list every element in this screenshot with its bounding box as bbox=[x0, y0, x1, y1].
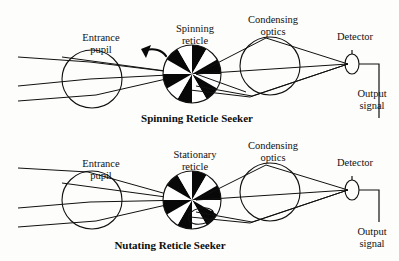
panel-spinning-reticle-seeker: Entrance pupil Spinning reticle Condensi… bbox=[18, 14, 387, 124]
reticle-wheel-stationary bbox=[163, 171, 221, 229]
label-output-top-line2: signal bbox=[359, 100, 384, 111]
label-spinning-reticle-line1: Spinning bbox=[176, 23, 215, 34]
label-condensing-optics-top-line1: Condensing bbox=[248, 14, 299, 25]
label-spinning-reticle-line2: reticle bbox=[182, 35, 209, 46]
label-condensing-optics-bottom-line2: optics bbox=[260, 152, 285, 163]
incoming-ray-bundle-top bbox=[18, 57, 96, 101]
caption-nutating-reticle-seeker: Nutating Reticle Seeker bbox=[114, 239, 225, 251]
label-output-bottom-line1: Output bbox=[357, 226, 386, 237]
output-signal-wire-bottom bbox=[352, 176, 379, 222]
label-condensing-optics-bottom-line1: Condensing bbox=[248, 140, 299, 151]
rotation-arrow-icon bbox=[141, 45, 166, 58]
label-detector-bottom: Detector bbox=[337, 157, 374, 168]
label-condensing-optics-top-line2: optics bbox=[260, 26, 285, 37]
label-stationary-reticle-line1: Stationary bbox=[173, 149, 217, 160]
label-output-bottom-line2: signal bbox=[359, 238, 384, 249]
panel-nutating-reticle-seeker: Entrance pupil Stationary reticle Conden… bbox=[18, 140, 387, 251]
reticle-wheel-spinning bbox=[163, 45, 221, 103]
label-entrance-pupil-top-line2: pupil bbox=[90, 44, 112, 55]
incoming-ray-bundle-bottom bbox=[18, 168, 96, 227]
label-detector-top: Detector bbox=[337, 31, 374, 42]
label-stationary-reticle-line2: reticle bbox=[182, 161, 209, 172]
label-entrance-pupil-bottom-line1: Entrance bbox=[82, 158, 120, 169]
caption-spinning-reticle-seeker: Spinning Reticle Seeker bbox=[141, 112, 253, 124]
seeker-diagram: Entrance pupil Spinning reticle Condensi… bbox=[0, 0, 399, 261]
label-output-top-line1: Output bbox=[357, 88, 386, 99]
condensing-lens-bottom bbox=[240, 163, 300, 221]
label-entrance-pupil-bottom-line2: pupil bbox=[90, 170, 112, 181]
label-entrance-pupil-top-line1: Entrance bbox=[82, 32, 120, 43]
figure-canvas: Entrance pupil Spinning reticle Condensi… bbox=[0, 0, 399, 261]
